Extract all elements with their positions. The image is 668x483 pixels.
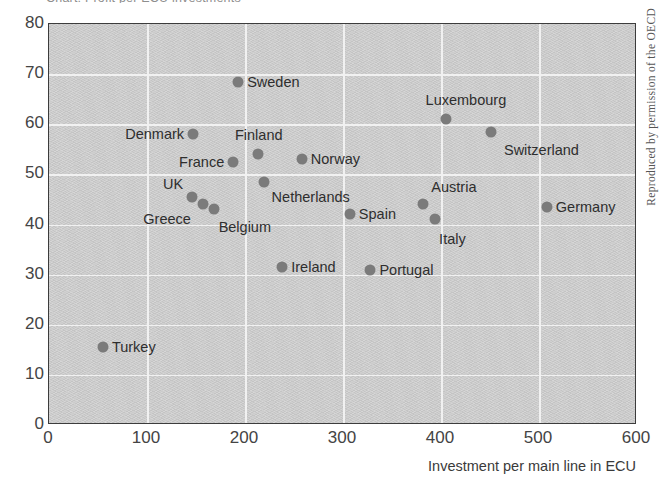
data-label-italy: Italy — [439, 231, 466, 247]
data-point-finland[interactable] — [252, 149, 263, 160]
plot-background-texture — [49, 24, 635, 423]
gridline-vertical — [441, 24, 443, 423]
data-label-luxembourg: Luxembourg — [426, 92, 507, 108]
data-label-austria: Austria — [431, 179, 476, 195]
gridline-horizontal — [49, 225, 635, 227]
data-point-ireland[interactable] — [277, 262, 288, 273]
data-label-switzerland: Switzerland — [504, 142, 579, 158]
data-label-germany: Germany — [556, 199, 616, 215]
y-axis-tick-label: 20 — [2, 314, 44, 334]
y-axis-tick-label: 0 — [2, 414, 44, 434]
data-point-austria[interactable] — [418, 199, 429, 210]
data-point-netherlands[interactable] — [258, 176, 269, 187]
data-point-sweden[interactable] — [233, 76, 244, 87]
gridline-horizontal — [49, 174, 635, 176]
scatter-plot-area: SwedenLuxembourgSwitzerlandDenmarkFinlan… — [48, 23, 636, 424]
data-point-italy[interactable] — [430, 214, 441, 225]
data-point-turkey[interactable] — [97, 342, 108, 353]
gridline-vertical — [343, 24, 345, 423]
x-axis-label: Investment per main line in ECU — [428, 458, 636, 474]
gridline-horizontal — [49, 74, 635, 76]
data-label-turkey: Turkey — [112, 339, 156, 355]
y-axis-tick-label: 10 — [2, 364, 44, 384]
data-label-spain: Spain — [359, 206, 396, 222]
data-point-uk[interactable] — [187, 191, 198, 202]
x-axis-tick-label: 500 — [524, 428, 552, 448]
y-axis-ticks: 01020304050607080 — [0, 23, 44, 424]
data-label-netherlands: Netherlands — [272, 189, 350, 205]
data-label-sweden: Sweden — [247, 74, 299, 90]
data-point-spain[interactable] — [344, 209, 355, 220]
gridline-horizontal — [49, 275, 635, 277]
data-label-norway: Norway — [311, 151, 360, 167]
y-axis-tick-label: 70 — [2, 63, 44, 83]
y-axis-tick-label: 60 — [2, 113, 44, 133]
data-label-belgium: Belgium — [219, 219, 271, 235]
x-axis-tick-label: 400 — [426, 428, 454, 448]
x-axis-ticks: 0100200300400500600 — [48, 428, 636, 452]
data-point-norway[interactable] — [296, 154, 307, 165]
gridline-vertical — [539, 24, 541, 423]
data-label-portugal: Portugal — [379, 262, 433, 278]
y-axis-tick-label: 30 — [2, 264, 44, 284]
x-axis-tick-label: 600 — [622, 428, 650, 448]
data-point-luxembourg[interactable] — [440, 114, 451, 125]
data-point-belgium[interactable] — [208, 204, 219, 215]
x-axis-tick-label: 200 — [230, 428, 258, 448]
y-axis-tick-label: 40 — [2, 214, 44, 234]
oecd-credit-text: Reproduced by permission of the OECD — [645, 8, 657, 206]
chart-title: Chart: Profit per ECU investments — [46, 0, 241, 3]
x-axis-tick-label: 300 — [328, 428, 356, 448]
gridline-horizontal — [49, 325, 635, 327]
data-point-denmark[interactable] — [188, 129, 199, 140]
data-point-greece[interactable] — [197, 199, 208, 210]
data-label-greece: Greece — [143, 211, 191, 227]
y-axis-tick-label: 80 — [2, 13, 44, 33]
gridline-horizontal — [49, 375, 635, 377]
data-point-switzerland[interactable] — [485, 126, 496, 137]
data-label-france: France — [179, 154, 224, 170]
data-label-ireland: Ireland — [291, 259, 335, 275]
data-label-uk: UK — [163, 176, 183, 192]
x-axis-tick-label: 100 — [132, 428, 160, 448]
data-point-france[interactable] — [228, 156, 239, 167]
y-axis-tick-label: 50 — [2, 163, 44, 183]
data-point-portugal[interactable] — [365, 264, 376, 275]
x-axis-tick-label: 0 — [43, 428, 52, 448]
data-label-denmark: Denmark — [125, 126, 184, 142]
data-point-germany[interactable] — [541, 201, 552, 212]
data-label-finland: Finland — [235, 127, 283, 143]
